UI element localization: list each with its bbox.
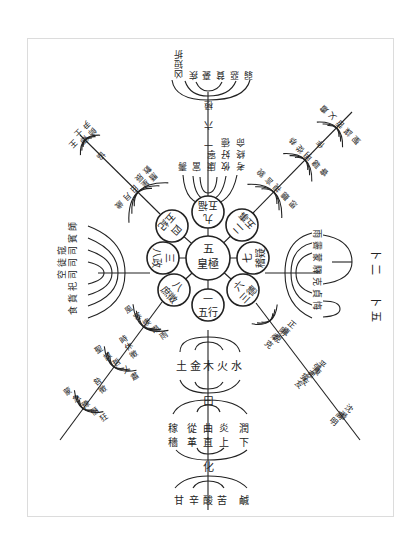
diagram-label: 徒	[56, 258, 67, 267]
svg-text:凶: 凶	[174, 69, 183, 79]
svg-text:短: 短	[174, 59, 183, 70]
diagram-label: 師	[67, 222, 78, 231]
connector-hua: 化	[203, 460, 214, 474]
diagram-label: 疾	[189, 70, 198, 81]
flavor-0: 甘	[174, 494, 184, 506]
category-label: 五行	[198, 306, 218, 318]
branch-wufu: 考攸康富壽終好寧命德一 六 極 弱惡貧憂疾凶短折	[172, 49, 253, 220]
diagram-label: 寇	[56, 246, 67, 255]
effect-bottom-0: 穡	[168, 436, 178, 448]
jiyi-items: 雨霽蒙驛克貞悔	[312, 229, 323, 310]
diagram-label: 乂	[326, 110, 338, 122]
diagram-label: 霽	[312, 241, 322, 250]
diagram-label: 賓	[67, 234, 78, 243]
diagram-label: 司	[68, 246, 78, 255]
diagram-label: 祀	[67, 282, 78, 291]
branch-wushi: 貌言視聽思恭從明聰睿作肅乂哲謀聖	[247, 103, 361, 218]
diagram-label: 德	[221, 137, 230, 148]
category-number: 一	[203, 294, 213, 305]
diagram-label: 聖	[350, 133, 362, 145]
effect-top-3: 炎	[219, 423, 229, 434]
diagram-label: 肅	[318, 103, 331, 116]
category-circle-seven: 七稽疑	[237, 242, 269, 274]
diagram-label: 思	[287, 198, 299, 210]
diagram-label: 恭	[287, 135, 299, 147]
flavor-3: 苦	[217, 494, 227, 506]
category-circle-four: 四五紀	[156, 210, 188, 242]
branch-shuzheng: 雨暘燠寒風時休徵肅乂哲謀聖咎徵狂僭豫急蒙	[60, 302, 170, 440]
bazheng-items: 師賓司寇司徒司空祀貨食	[56, 222, 78, 315]
element-0: 土	[176, 360, 187, 373]
effect-bottom-3: 上	[219, 437, 229, 448]
diagram-label: 司	[68, 270, 78, 279]
category-label: 稽疑	[254, 248, 266, 268]
group-bu-two: 卜 二	[369, 249, 382, 275]
wufu-five-blessings: 考攸康富壽終好寧命德一 六 極	[178, 100, 245, 172]
svg-text:一: 一	[204, 140, 213, 150]
diagram-label: 驛	[312, 265, 322, 274]
category-circle-three: 三八政	[147, 242, 179, 274]
diagram-label: 命	[236, 137, 245, 148]
diagram-label: 司	[68, 258, 78, 267]
category-number: 七	[242, 253, 253, 263]
flavor-1: 辛	[189, 494, 199, 506]
element-3: 火	[217, 360, 228, 373]
diagram-label: 弱	[244, 70, 253, 80]
diagram-label: 好	[221, 149, 230, 160]
group-bu-five: 卜 五	[369, 296, 382, 322]
connector-yue: 曰	[203, 395, 214, 408]
diagram-label: 憂	[202, 70, 211, 80]
effect-top-2: 曲	[203, 423, 213, 434]
wuxing-elements: 土金木火水	[176, 359, 242, 373]
category-number: 三	[164, 253, 175, 263]
diagram-label: 月	[121, 191, 133, 203]
effect-top-1: 從	[187, 422, 197, 434]
connector-label: 時休徵	[118, 334, 140, 361]
diagram-label: 悔	[312, 301, 323, 310]
diagram-label: 食	[67, 306, 78, 315]
diagram-label: 康	[207, 161, 216, 172]
diagram-label: 終	[236, 149, 245, 160]
svg-text:折: 折	[174, 49, 183, 60]
category-circle-one: 一五行	[192, 289, 224, 321]
diagram-label: 歲	[113, 198, 126, 211]
diagram-label: 貨	[67, 294, 78, 303]
hub: 五 皇極	[186, 236, 230, 280]
diagram-label: 惡	[230, 70, 239, 80]
diagram-label: 考	[236, 161, 245, 171]
diagram-label: 貧	[216, 70, 225, 81]
diagram-label: 凶短折	[174, 49, 183, 79]
diagram-label: 蒙	[312, 253, 323, 262]
center-number: 五	[203, 243, 214, 256]
svg-text:六: 六	[204, 120, 213, 131]
liuji-six-extremes: 弱惡貧憂疾凶短折	[174, 49, 253, 81]
category-label: 八政	[151, 248, 163, 268]
five-flavors: 甘辛酸苦鹹	[174, 494, 249, 506]
diagram-label: 雨	[312, 229, 322, 238]
flavor-4: 鹹	[239, 494, 249, 506]
branch-wuxing: 土金木火水 曰 稼從曲炎潤穡革直上下 化 甘辛酸苦鹹	[168, 330, 249, 510]
diagram-label: 王	[67, 138, 79, 150]
effect-top-0: 稼	[168, 423, 178, 434]
branch-sande: 正直剛克柔克平康彊弗友燮友沈潛高明	[252, 303, 360, 440]
connector-liuji: 一 六 極	[204, 100, 213, 150]
category-circle-six: 六三德	[227, 274, 259, 306]
effect-bottom-4: 下	[239, 437, 249, 448]
hongfan-nine-categories-diagram: 土金木火水 曰 稼從曲炎潤穡革直上下 化 甘辛酸苦鹹 考攸康富壽終好寧命德一 六…	[0, 0, 417, 550]
effect-bottom-1: 革	[187, 436, 197, 448]
effect-bottom-2: 直	[203, 436, 213, 448]
center-label: 皇極	[197, 257, 219, 271]
element-1: 金	[190, 359, 201, 373]
diagram-label: 睿	[318, 166, 330, 178]
effect-top-4: 潤	[239, 423, 249, 434]
branch-bazheng: 師賓司寇司徒司空祀貨食	[56, 222, 150, 319]
category-circle-eight: 八庶徵	[158, 274, 190, 306]
category-circle-two: 二五事	[226, 209, 258, 241]
diagram-label: 壽	[178, 161, 187, 172]
branch-jiyi: 雨霽蒙驛克貞悔 卜 二 卜 五	[265, 229, 382, 322]
branch-wuji: 歲月日星辰曆數協王卿士師尹	[67, 119, 168, 223]
element-2: 木	[203, 360, 214, 373]
diagram-label: 富	[192, 161, 201, 172]
element-4: 水	[231, 360, 242, 373]
diagram-label: 空	[56, 270, 67, 279]
